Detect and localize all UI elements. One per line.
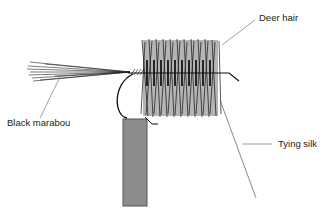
black-marabou-tail	[27, 62, 130, 81]
label-black-marabou: Black marabou	[7, 117, 70, 128]
tying-silk-thread	[220, 100, 256, 198]
diagram-canvas	[0, 0, 324, 216]
deer-hair-leader-line	[222, 20, 255, 45]
label-tying-silk: Tying silk	[278, 138, 317, 149]
deer-hair-body	[141, 39, 221, 117]
vise-jaw	[123, 119, 147, 206]
hook-bend	[117, 74, 133, 118]
label-deer-hair: Deer hair	[259, 12, 298, 23]
black-marabou-leader-line	[40, 77, 60, 118]
fly-tying-diagram: Deer hair Black marabou Tying silk	[0, 0, 324, 216]
